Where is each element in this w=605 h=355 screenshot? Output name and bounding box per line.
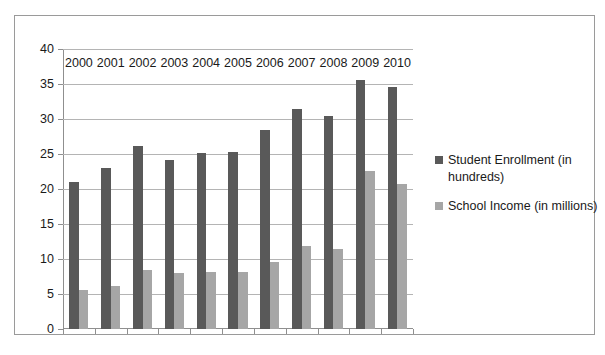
chart-legend: Student Enrollment (in hundreds)School I… — [435, 152, 603, 228]
chart-frame: 0510152025303540 20002001200220032004200… — [14, 15, 595, 335]
y-axis-label: 40 — [40, 43, 54, 56]
y-axis-label: 10 — [40, 253, 54, 266]
bar-2007-series-0 — [292, 109, 302, 329]
bar-2008-series-1 — [333, 249, 343, 329]
x-axis-label-2010: 2010 — [381, 57, 413, 70]
x-axis-label-2000: 2000 — [63, 57, 95, 70]
bar-2010-series-1 — [397, 184, 407, 329]
bar-2001-series-1 — [111, 286, 121, 329]
bar-2002-series-0 — [133, 146, 143, 329]
x-tick-mark — [286, 329, 287, 334]
x-tick-mark — [63, 329, 64, 334]
x-tick-mark — [318, 329, 319, 334]
bar-2002-series-1 — [143, 270, 153, 330]
legend-swatch-icon — [435, 156, 443, 164]
y-axis-label: 20 — [40, 183, 54, 196]
bar-2004-series-0 — [197, 153, 207, 329]
legend-swatch-icon — [435, 202, 443, 210]
x-axis-label-2009: 2009 — [349, 57, 381, 70]
y-tick-mark — [58, 84, 63, 85]
bar-2006-series-0 — [260, 130, 270, 329]
bar-2009-series-1 — [365, 171, 375, 329]
x-tick-mark — [127, 329, 128, 334]
y-axis-label: 0 — [47, 323, 54, 336]
bar-2000-series-1 — [79, 290, 89, 329]
bar-2007-series-1 — [302, 246, 312, 329]
y-axis-label: 15 — [40, 218, 54, 231]
x-tick-mark — [190, 329, 191, 334]
bar-2008-series-0 — [324, 116, 334, 330]
y-tick-mark — [58, 119, 63, 120]
x-tick-mark — [413, 329, 414, 334]
bar-2009-series-0 — [356, 80, 366, 329]
x-tick-mark — [349, 329, 350, 334]
x-axis-label-2001: 2001 — [95, 57, 127, 70]
legend-label: School Income (in millions) — [448, 198, 603, 215]
x-tick-mark — [222, 329, 223, 334]
bar-2001-series-0 — [101, 168, 111, 329]
bar-2004-series-1 — [206, 272, 216, 329]
y-tick-mark — [58, 189, 63, 190]
bar-2010-series-0 — [388, 87, 398, 329]
legend-label: Student Enrollment (in hundreds) — [448, 152, 603, 185]
y-tick-mark — [58, 154, 63, 155]
y-tick-mark — [58, 259, 63, 260]
x-axis-label-2008: 2008 — [318, 57, 350, 70]
y-axis-label: 25 — [40, 148, 54, 161]
bar-2003-series-1 — [174, 273, 184, 329]
x-axis-label-2005: 2005 — [222, 57, 254, 70]
y-tick-mark — [58, 49, 63, 50]
x-tick-mark — [158, 329, 159, 334]
x-axis-label-2003: 2003 — [158, 57, 190, 70]
bar-2006-series-1 — [270, 262, 280, 329]
x-tick-mark — [254, 329, 255, 334]
bar-2005-series-1 — [238, 272, 248, 329]
y-axis-label: 5 — [47, 288, 54, 301]
x-axis-label-2004: 2004 — [190, 57, 222, 70]
bar-2003-series-0 — [165, 160, 175, 329]
y-tick-mark — [58, 294, 63, 295]
plot-area: 0510152025303540 20002001200220032004200… — [63, 49, 413, 329]
x-axis-label-2002: 2002 — [127, 57, 159, 70]
y-axis-label: 30 — [40, 113, 54, 126]
bar-2000-series-0 — [69, 182, 79, 329]
bar-2005-series-0 — [228, 152, 238, 329]
x-axis-label-2007: 2007 — [286, 57, 318, 70]
x-axis-label-2006: 2006 — [254, 57, 286, 70]
legend-item-1[interactable]: School Income (in millions) — [435, 198, 603, 215]
y-axis-label: 35 — [40, 78, 54, 91]
x-tick-mark — [95, 329, 96, 334]
legend-item-0[interactable]: Student Enrollment (in hundreds) — [435, 152, 603, 185]
y-tick-mark — [58, 224, 63, 225]
gridline — [63, 49, 413, 50]
x-tick-mark — [381, 329, 382, 334]
